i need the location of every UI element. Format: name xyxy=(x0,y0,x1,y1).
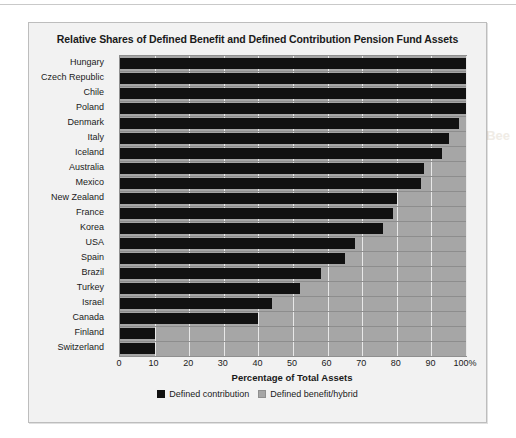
plot-wrapper: HungaryCzech RepublicChilePolandDenmarkI… xyxy=(41,55,476,367)
bar-defined-contribution xyxy=(120,73,466,83)
x-tick-70: 70 xyxy=(356,358,366,368)
gridline-100 xyxy=(466,56,467,356)
row-separator xyxy=(120,251,466,252)
bar-row xyxy=(120,326,466,341)
y-axis-label-australia: Australia xyxy=(69,163,104,172)
bar-defined-contribution xyxy=(120,253,345,263)
bar-row xyxy=(120,296,466,311)
x-tick-80: 80 xyxy=(391,358,401,368)
plot-area xyxy=(119,55,467,357)
y-axis-label-canada: Canada xyxy=(72,313,104,322)
chart-legend: Defined contributionDefined benefit/hybr… xyxy=(29,389,486,399)
y-axis-label-switzerland: Switzerland xyxy=(57,343,104,352)
bar-defined-contribution xyxy=(120,313,258,323)
y-axis-label-iceland: Iceland xyxy=(75,148,104,157)
row-separator xyxy=(120,71,466,72)
row-separator xyxy=(120,206,466,207)
bar-defined-contribution xyxy=(120,283,300,293)
bar-defined-contribution xyxy=(120,148,442,158)
row-separator xyxy=(120,131,466,132)
x-axis-title: Percentage of Total Assets xyxy=(119,372,465,383)
y-axis-label-spain: Spain xyxy=(81,253,104,262)
bar-defined-contribution xyxy=(120,238,355,248)
bar-row xyxy=(120,341,466,356)
bar-defined-contribution xyxy=(120,88,466,98)
row-separator xyxy=(120,341,466,342)
row-separator xyxy=(120,296,466,297)
y-axis-label-korea: Korea xyxy=(80,223,104,232)
row-separator xyxy=(120,326,466,327)
bar-defined-contribution xyxy=(120,163,424,173)
y-axis-label-mexico: Mexico xyxy=(75,178,104,187)
bar-defined-contribution xyxy=(120,208,393,218)
y-axis-label-israel: Israel xyxy=(82,298,104,307)
y-axis-label-czech-republic: Czech Republic xyxy=(41,73,104,82)
bar-defined-contribution xyxy=(120,133,449,143)
row-separator xyxy=(120,161,466,162)
bar-row xyxy=(120,281,466,296)
bar-defined-contribution xyxy=(120,328,155,338)
bar-defined-contribution xyxy=(120,178,421,188)
bar-defined-contribution xyxy=(120,118,459,128)
bar-defined-contribution xyxy=(120,223,383,233)
chart-title: Relative Shares of Defined Benefit and D… xyxy=(29,33,486,45)
row-separator xyxy=(120,101,466,102)
legend-swatch-dc xyxy=(157,390,165,398)
x-tick-0: 0 xyxy=(116,358,121,368)
row-separator xyxy=(120,191,466,192)
bar-row xyxy=(120,86,466,101)
row-separator xyxy=(120,116,466,117)
row-separator xyxy=(120,176,466,177)
legend-item-dc: Defined contribution xyxy=(157,389,249,399)
bar-row xyxy=(120,131,466,146)
row-separator xyxy=(120,266,466,267)
y-axis-label-chile: Chile xyxy=(83,88,104,97)
legend-swatch-db xyxy=(258,390,266,398)
x-axis-tick-labels: 0102030405060708090100% xyxy=(119,358,465,372)
y-axis-label-italy: Italy xyxy=(87,133,104,142)
bar-row xyxy=(120,311,466,326)
bar-row xyxy=(120,71,466,86)
bar-row xyxy=(120,101,466,116)
bar-row xyxy=(120,191,466,206)
x-tick-20: 20 xyxy=(183,358,193,368)
bar-row xyxy=(120,146,466,161)
y-axis-category-labels: HungaryCzech RepublicChilePolandDenmarkI… xyxy=(41,55,107,355)
bar-defined-contribution xyxy=(120,193,397,203)
x-tick-100pct: 100% xyxy=(453,358,476,368)
x-tick-50: 50 xyxy=(287,358,297,368)
row-separator xyxy=(120,221,466,222)
bar-row xyxy=(120,221,466,236)
bar-defined-contribution xyxy=(120,268,321,278)
y-axis-label-usa: USA xyxy=(85,238,104,247)
y-axis-label-hungary: Hungary xyxy=(70,58,104,67)
y-axis-label-finland: Finland xyxy=(74,328,104,337)
bar-row xyxy=(120,266,466,281)
y-axis-label-new-zealand: New Zealand xyxy=(51,193,104,202)
x-tick-90: 90 xyxy=(425,358,435,368)
chart-figure: Relative Shares of Defined Benefit and D… xyxy=(28,22,487,423)
y-axis-label-poland: Poland xyxy=(76,103,104,112)
bar-defined-contribution xyxy=(120,343,155,353)
background-ghost-text-a: Bee xyxy=(486,128,510,143)
bar-row xyxy=(120,116,466,131)
row-separator xyxy=(120,86,466,87)
bar-row xyxy=(120,206,466,221)
bar-row xyxy=(120,176,466,191)
bar-row xyxy=(120,56,466,71)
bar-row xyxy=(120,161,466,176)
x-tick-10: 10 xyxy=(149,358,159,368)
bar-row xyxy=(120,251,466,266)
y-axis-label-turkey: Turkey xyxy=(77,283,104,292)
legend-item-db: Defined benefit/hybrid xyxy=(258,389,358,399)
y-axis-label-brazil: Brazil xyxy=(81,268,104,277)
page-top-rule xyxy=(0,4,516,5)
bar-defined-contribution xyxy=(120,298,272,308)
bar-defined-contribution xyxy=(120,58,466,68)
legend-label-db: Defined benefit/hybrid xyxy=(270,389,358,399)
row-separator xyxy=(120,236,466,237)
y-axis-label-denmark: Denmark xyxy=(67,118,104,127)
row-separator xyxy=(120,146,466,147)
x-tick-30: 30 xyxy=(218,358,228,368)
bar-row xyxy=(120,236,466,251)
